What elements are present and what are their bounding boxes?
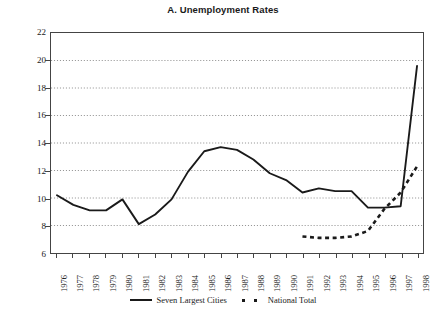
x-axis-tick-label: 1993 [339, 258, 348, 292]
x-axis-tick-label: 1988 [257, 258, 266, 292]
x-axis-tick-mark [237, 254, 238, 258]
y-axis-tick-label: 18 [20, 83, 46, 93]
x-axis-tick-mark [72, 254, 73, 258]
x-axis-tick-mark [188, 254, 189, 258]
x-axis-tick-mark [319, 254, 320, 258]
y-axis-tick-label: 16 [20, 110, 46, 120]
solid-line-icon [130, 296, 152, 304]
x-axis-tick-label: 1995 [372, 258, 381, 292]
x-axis-tick-mark [171, 254, 172, 258]
x-axis-tick-label: 1976 [60, 258, 69, 292]
plot-area [50, 32, 424, 254]
legend-entry[interactable]: Seven Largest Cities [130, 295, 227, 305]
x-axis-tick-mark [221, 254, 222, 258]
y-axis-tick-label: 10 [20, 194, 46, 204]
y-axis-tick-labels: 6810121416182022 [16, 32, 46, 254]
x-axis-tick-mark [402, 254, 403, 258]
x-axis-tick-label: 1996 [389, 258, 398, 292]
x-axis-tick-mark [369, 254, 370, 258]
x-axis-tick-label: 1982 [158, 258, 167, 292]
x-axis-tick-label: 1997 [405, 258, 414, 292]
x-axis-tick-label: 1994 [356, 258, 365, 292]
x-axis-tick-mark [105, 254, 106, 258]
x-axis-tick-labels: 1976197719781979198019811982198319841985… [50, 260, 424, 294]
chart-figure: A. Unemployment Rates % of economically … [0, 0, 446, 313]
legend-label: Seven Largest Cities [157, 295, 227, 305]
legend-entry[interactable]: National Total [241, 295, 317, 305]
y-axis-tick-label: 22 [20, 27, 46, 37]
series-line-1 [57, 66, 417, 224]
x-axis-tick-mark [204, 254, 205, 258]
x-axis-tick-label: 1985 [208, 258, 217, 292]
x-axis-tick-mark [336, 254, 337, 258]
chart-title: A. Unemployment Rates [0, 4, 446, 15]
y-axis-tick-label: 6 [20, 249, 46, 259]
x-axis-tick-label: 1991 [306, 258, 315, 292]
x-axis-tick-label: 1987 [241, 258, 250, 292]
x-axis-tick-mark [352, 254, 353, 258]
x-axis-tick-mark [385, 254, 386, 258]
chart-legend: Seven Largest CitiesNational Total [0, 292, 446, 308]
x-axis-tick-label: 1981 [142, 258, 151, 292]
x-axis-tick-marks [50, 254, 424, 259]
x-axis-tick-mark [303, 254, 304, 258]
x-axis-tick-mark [89, 254, 90, 258]
x-axis-tick-label: 1977 [76, 258, 85, 292]
x-axis-tick-mark [138, 254, 139, 258]
x-axis-tick-label: 1980 [125, 258, 134, 292]
x-axis-tick-mark [270, 254, 271, 258]
dashed-line-icon [241, 296, 263, 304]
x-axis-tick-label: 1998 [422, 258, 431, 292]
y-axis-tick-label: 14 [20, 138, 46, 148]
x-axis-tick-mark [253, 254, 254, 258]
x-axis-tick-label: 1979 [109, 258, 118, 292]
data-series-layer [51, 33, 423, 253]
x-axis-tick-mark [56, 254, 57, 258]
x-axis-tick-label: 1990 [290, 258, 299, 292]
x-axis-tick-mark [122, 254, 123, 258]
legend-label: National Total [268, 295, 317, 305]
y-axis-tick-label: 20 [20, 55, 46, 65]
x-axis-tick-label: 1992 [323, 258, 332, 292]
series-line-2 [302, 166, 417, 238]
x-axis-tick-label: 1983 [175, 258, 184, 292]
x-axis-tick-mark [286, 254, 287, 258]
y-axis-tick-label: 8 [20, 221, 46, 231]
x-axis-tick-label: 1986 [224, 258, 233, 292]
x-axis-tick-label: 1984 [191, 258, 200, 292]
y-axis-tick-label: 12 [20, 166, 46, 176]
x-axis-tick-label: 1978 [92, 258, 101, 292]
x-axis-tick-mark [155, 254, 156, 258]
x-axis-tick-mark [418, 254, 419, 258]
x-axis-tick-label: 1989 [273, 258, 282, 292]
